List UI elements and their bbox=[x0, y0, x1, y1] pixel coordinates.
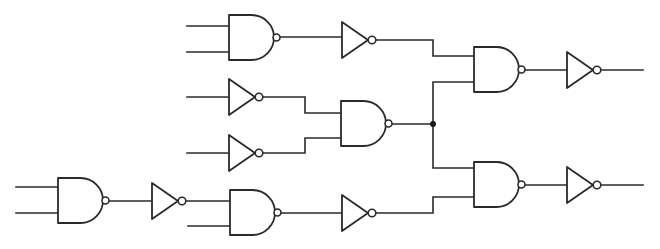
wires bbox=[16, 26, 643, 226]
inversion-bubble-icon bbox=[385, 120, 392, 127]
nand-body-icon bbox=[58, 178, 103, 223]
not-triangle-icon bbox=[342, 22, 368, 58]
not-6-gate bbox=[342, 195, 376, 231]
nand-body-icon bbox=[341, 101, 386, 146]
junctions bbox=[430, 121, 436, 127]
inversion-bubble-icon bbox=[593, 181, 601, 189]
not-triangle-icon bbox=[567, 52, 593, 88]
inversion-bubble-icon bbox=[274, 209, 281, 216]
nand-1-gate bbox=[229, 15, 280, 60]
not-triangle-icon bbox=[229, 135, 255, 171]
not-5-gate bbox=[152, 183, 186, 219]
nand-7-gate bbox=[474, 162, 525, 207]
wire bbox=[374, 197, 474, 213]
nand-5-gate bbox=[58, 178, 109, 223]
not-triangle-icon bbox=[152, 183, 178, 219]
inversion-bubble-icon bbox=[178, 197, 186, 205]
inversion-bubble-icon bbox=[255, 149, 263, 157]
wire bbox=[433, 124, 474, 168]
inversion-bubble-icon bbox=[368, 209, 376, 217]
not-7-gate bbox=[567, 167, 601, 203]
inversion-bubble-icon bbox=[518, 181, 525, 188]
junction-dot-icon bbox=[430, 121, 436, 127]
nand-body-icon bbox=[474, 47, 519, 92]
wire bbox=[433, 82, 474, 124]
gates bbox=[58, 15, 601, 235]
not-triangle-icon bbox=[342, 195, 368, 231]
nand-body-icon bbox=[474, 162, 519, 207]
not-1-gate bbox=[342, 22, 376, 58]
inversion-bubble-icon bbox=[518, 66, 525, 73]
nand-4-gate bbox=[474, 47, 525, 92]
inversion-bubble-icon bbox=[273, 34, 280, 41]
nand-body-icon bbox=[230, 190, 275, 235]
inversion-bubble-icon bbox=[368, 36, 376, 44]
nand-6-gate bbox=[230, 190, 281, 235]
wire bbox=[261, 138, 341, 153]
inversion-bubble-icon bbox=[593, 66, 601, 74]
not-triangle-icon bbox=[229, 79, 255, 115]
logic-circuit-diagram bbox=[0, 0, 660, 249]
wire bbox=[373, 40, 474, 56]
not-2-gate bbox=[229, 79, 263, 115]
nand-3-gate bbox=[341, 101, 392, 146]
not-3-gate bbox=[229, 135, 263, 171]
not-triangle-icon bbox=[567, 167, 593, 203]
nand-body-icon bbox=[229, 15, 274, 60]
inversion-bubble-icon bbox=[102, 197, 109, 204]
inversion-bubble-icon bbox=[255, 93, 263, 101]
not-4-gate bbox=[567, 52, 601, 88]
wire bbox=[261, 97, 341, 113]
